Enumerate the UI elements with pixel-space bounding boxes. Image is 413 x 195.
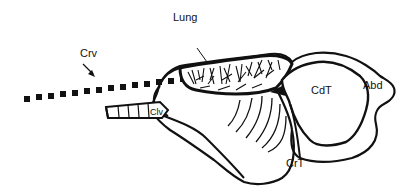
label-crv: Crv [80, 48, 97, 59]
crv-arrow-icon [83, 64, 95, 77]
label-crt: CrT [286, 158, 304, 169]
diagram-drawing [0, 0, 413, 195]
crt-striations [228, 96, 286, 152]
lung-shape [180, 55, 292, 94]
cdt-shape [282, 62, 368, 146]
anatomy-diagram: Crv Lung Clv CdT Abd CrT [0, 0, 413, 195]
lung-pointer-line [197, 48, 207, 62]
label-lung: Lung [173, 12, 197, 23]
neck-lower-outline [164, 116, 244, 178]
label-abd: Abd [363, 80, 383, 91]
label-cdt: CdT [311, 85, 332, 96]
label-clv: Clv [150, 108, 163, 117]
